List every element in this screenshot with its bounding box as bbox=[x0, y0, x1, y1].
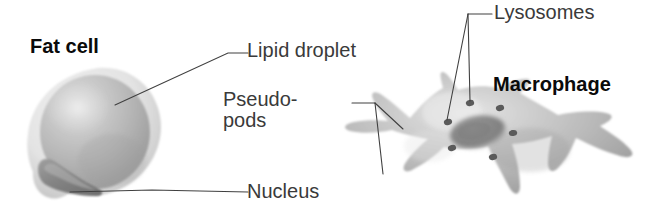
leader-pseudopods-branch-b bbox=[375, 103, 383, 174]
label-pseudopods: Pseudo-pods bbox=[223, 89, 298, 131]
label-lipid-droplet: Lipid droplet bbox=[247, 40, 356, 61]
label-lysosomes: Lysosomes bbox=[494, 2, 594, 23]
label-macrophage: Macrophage bbox=[493, 74, 611, 95]
droplet-shadow bbox=[78, 134, 146, 186]
label-pseudopods-line1: Pseudo- bbox=[223, 88, 298, 110]
label-nucleus: Nucleus bbox=[247, 181, 319, 202]
diagram-canvas bbox=[0, 0, 654, 221]
label-pseudopods-line2: pods bbox=[223, 109, 266, 131]
figure-root: Fat cell Lipid droplet Pseudo-pods Nucle… bbox=[0, 0, 654, 221]
label-fat-cell: Fat cell bbox=[30, 36, 99, 57]
macrophage-highlight-2 bbox=[404, 130, 456, 162]
fat-cell-illustration bbox=[27, 68, 161, 199]
droplet-highlight bbox=[46, 82, 110, 134]
